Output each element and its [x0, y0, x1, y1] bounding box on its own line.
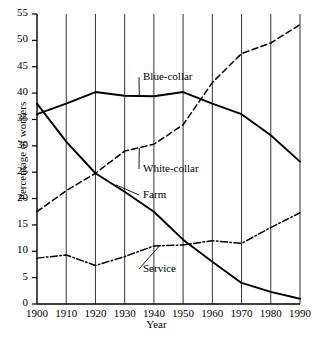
y-tick-label: 50: [4, 32, 28, 44]
vertical-gridlines: [66, 14, 300, 304]
y-tick-label: 5: [4, 270, 28, 282]
y-axis-ticks: [32, 14, 37, 304]
series-line-blue-collar: [37, 92, 300, 162]
series-line-white-collar: [37, 25, 300, 212]
y-axis-title: Percentage of workers: [16, 66, 28, 236]
series-label-service: Service: [143, 262, 176, 274]
series-label-white-collar: White-collar: [143, 162, 199, 174]
series-label-blue-collar: Blue-collar: [143, 70, 192, 82]
chart-axes: [37, 14, 300, 304]
series-line-service: [37, 213, 300, 266]
y-tick-label: 55: [4, 6, 28, 18]
y-tick-label: 10: [4, 243, 28, 255]
chart-container: 0510152025303540455055 19001910192019301…: [0, 0, 313, 339]
series-label-farm: Farm: [143, 188, 166, 200]
x-axis-title: Year: [0, 318, 313, 330]
